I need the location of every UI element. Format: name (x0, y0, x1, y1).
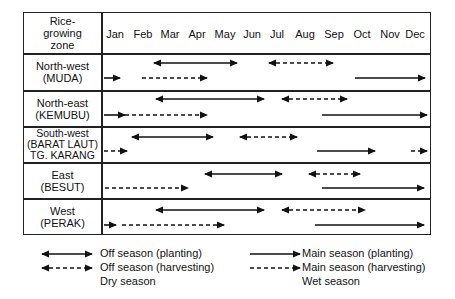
legend-dry-season: Dry season (100, 275, 156, 288)
legend-main-harvesting: Main season (harvesting) (302, 261, 426, 274)
legend-off-harvesting: Off season (harvesting) (100, 261, 214, 274)
legend-off-planting: Off season (planting) (100, 247, 202, 260)
legend-main-planting: Main season (planting) (302, 247, 413, 260)
legend-wet-season: Wet season (302, 275, 360, 288)
